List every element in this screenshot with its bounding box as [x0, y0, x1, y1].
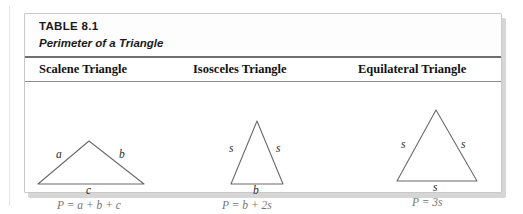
scalene-side-label-c: c	[86, 184, 91, 196]
equilateral-side-label-right: s	[461, 138, 465, 150]
scalene-side-label-a: a	[56, 148, 62, 160]
figure-body: a b c P = a + b + c s s b P = b + 2s s s…	[25, 82, 501, 192]
scalene-triangle-icon	[25, 82, 185, 194]
figure-cell-equilateral: s s s P = 3s	[340, 82, 503, 192]
isosceles-perimeter-formula: P = b + 2s	[222, 199, 272, 211]
isosceles-side-label-base: b	[253, 184, 259, 196]
table-number: TABLE 8.1	[39, 19, 501, 34]
equilateral-perimeter-formula: P = 3s	[412, 196, 443, 208]
figure-cell-isosceles: s s b P = b + 2s	[185, 82, 340, 192]
equilateral-side-label-left: s	[401, 138, 405, 150]
isosceles-triangle-icon	[185, 82, 340, 194]
page-margin-rule	[9, 6, 10, 206]
table-title: Perimeter of a Triangle	[39, 35, 501, 51]
isosceles-side-label-left: s	[229, 142, 233, 154]
scalene-perimeter-formula: P = a + b + c	[57, 199, 121, 211]
scalene-side-label-b: b	[119, 148, 125, 160]
table-caption-block: TABLE 8.1 Perimeter of a Triangle	[25, 14, 501, 58]
column-header-row: Scalene Triangle Isosceles Triangle Equi…	[25, 58, 501, 82]
equilateral-triangle-icon	[340, 82, 503, 194]
column-header-isosceles: Isosceles Triangle	[193, 62, 287, 77]
column-header-equilateral: Equilateral Triangle	[358, 62, 466, 77]
column-header-scalene: Scalene Triangle	[39, 62, 127, 77]
figure-cell-scalene: a b c P = a + b + c	[25, 82, 185, 192]
table-8-1-figure: TABLE 8.1 Perimeter of a Triangle Scalen…	[24, 13, 502, 193]
isosceles-side-label-right: s	[276, 142, 280, 154]
equilateral-side-label-base: s	[433, 181, 437, 193]
